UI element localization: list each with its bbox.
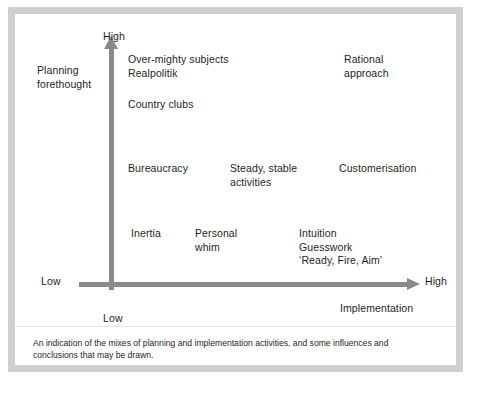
caption-divider [15, 326, 456, 327]
x-axis-arrow-icon [407, 278, 420, 290]
figure-inner: High Low Low High Planning forethought I… [15, 14, 456, 365]
annotation-inertia: Inertia [131, 227, 161, 241]
x-axis-high-label: High [425, 275, 447, 289]
figure-caption: An indication of the mixes of planning a… [33, 338, 433, 361]
annotation-bureaucracy: Bureaucracy [128, 162, 188, 176]
y-axis-high-label: High [103, 30, 125, 44]
x-axis-title: Implementation [340, 302, 413, 316]
annotation-rational-approach: Rational approach [344, 53, 389, 80]
quadrant-diagram: High Low Low High Planning forethought I… [15, 14, 456, 324]
y-axis-line [109, 48, 114, 290]
annotation-steady-stable-activities: Steady, stable activities [230, 162, 297, 189]
figure-frame: High Low Low High Planning forethought I… [8, 7, 463, 372]
annotation-country-clubs: Country clubs [128, 98, 194, 112]
x-axis-line [79, 282, 409, 287]
annotation-customerisation: Customerisation [339, 162, 416, 176]
x-axis-low-label: Low [41, 275, 61, 289]
y-axis-low-label: Low [103, 312, 123, 326]
annotation-over-mighty-subjects: Over-mighty subjects Realpolitik [128, 53, 229, 80]
y-axis-title: Planning forethought [37, 64, 91, 91]
annotation-personal-whim: Personal whim [195, 227, 237, 254]
annotation-intuition-guesswork: Intuition Guesswork ‘Ready, Fire, Aim’ [299, 227, 382, 268]
page-footer-clipped [10, 381, 470, 393]
